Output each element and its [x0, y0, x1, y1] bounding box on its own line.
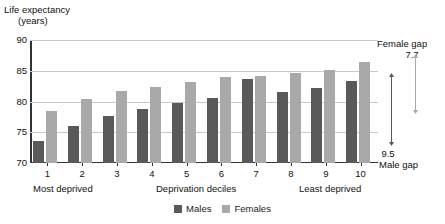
- x-axis-tick-mark: [152, 163, 153, 166]
- x-axis-tick-label: 6: [204, 168, 239, 179]
- bar-males-3: [103, 116, 114, 163]
- y-axis-tick-label: 80: [4, 96, 27, 107]
- bar-males-2: [68, 126, 79, 163]
- y-axis-title-line2: (years): [18, 15, 48, 26]
- bar-group: [100, 40, 135, 163]
- bar-group: [65, 40, 100, 163]
- plot-area: [30, 40, 378, 163]
- bar-groups: [30, 40, 378, 163]
- bar-females-7: [255, 76, 266, 163]
- female-gap-label: Female gap: [377, 38, 427, 49]
- bar-females-6: [220, 77, 231, 163]
- male-gap-value: 9.5: [376, 148, 400, 159]
- x-axis-tick-mark: [117, 163, 118, 166]
- chart-screenshot: Life expectancy (years) 7075808590 12345…: [0, 0, 445, 224]
- bar-group: [204, 40, 239, 163]
- y-axis-tick-label: 90: [4, 34, 27, 45]
- x-axis-caption-least-deprived: Least deprived: [299, 183, 361, 194]
- bar-group: [169, 40, 204, 163]
- legend-label: Females: [234, 203, 270, 214]
- legend-swatch-icon: [174, 205, 182, 213]
- bar-females-8: [290, 73, 301, 163]
- bar-group: [274, 40, 309, 163]
- legend-item-females: Females: [222, 203, 270, 214]
- bar-males-7: [242, 79, 253, 163]
- bar-females-10: [359, 62, 370, 163]
- x-axis-tick-label: 2: [65, 168, 100, 179]
- bar-group: [30, 40, 65, 163]
- x-axis-title: Deprivation deciles: [156, 183, 236, 194]
- x-axis-tick-label: 7: [239, 168, 274, 179]
- x-axis-tick-label: 5: [169, 168, 204, 179]
- legend: MalesFemales: [0, 203, 445, 214]
- y-axis-tick-label: 75: [4, 126, 27, 137]
- x-axis-tick-label: 8: [274, 168, 309, 179]
- x-axis-tick-mark: [291, 163, 292, 166]
- bar-females-3: [116, 91, 127, 163]
- male-gap-label: Male gap: [379, 159, 418, 170]
- x-axis-tick-mark: [256, 163, 257, 166]
- x-axis-tick-mark: [361, 163, 362, 166]
- bar-group: [343, 40, 378, 163]
- x-axis-tick-label: 4: [134, 168, 169, 179]
- x-axis-tick-mark: [326, 163, 327, 166]
- bar-females-2: [81, 99, 92, 163]
- bar-males-5: [172, 103, 183, 163]
- x-axis-tick-label: 9: [308, 168, 343, 179]
- bar-males-8: [277, 92, 288, 163]
- bar-group: [134, 40, 169, 163]
- x-axis-tick-label: 10: [343, 168, 378, 179]
- x-axis-tick-mark: [221, 163, 222, 166]
- bar-males-10: [346, 81, 357, 163]
- legend-swatch-icon: [222, 205, 230, 213]
- bar-males-4: [137, 109, 148, 163]
- x-axis-tick-mark: [187, 163, 188, 166]
- bar-females-4: [150, 87, 161, 163]
- x-axis-tick-mark: [82, 163, 83, 166]
- female-gap-arrow-icon: [411, 54, 420, 114]
- bar-males-1: [33, 141, 44, 163]
- y-axis-tick-label: 70: [4, 157, 27, 168]
- bar-males-6: [207, 98, 218, 163]
- y-axis-tick-label: 85: [4, 65, 27, 76]
- y-axis-title-line1: Life expectancy: [4, 4, 70, 15]
- male-gap-arrow-icon: [387, 73, 396, 146]
- x-axis-tick-label: 3: [100, 168, 135, 179]
- bar-females-9: [324, 70, 335, 163]
- bar-group: [239, 40, 274, 163]
- bar-males-9: [311, 88, 322, 163]
- x-axis-tick-label: 1: [30, 168, 65, 179]
- bar-females-5: [185, 82, 196, 163]
- bar-females-1: [46, 111, 57, 163]
- x-axis-caption-most-deprived: Most deprived: [33, 183, 93, 194]
- legend-label: Males: [186, 203, 211, 214]
- bar-group: [308, 40, 343, 163]
- x-axis-tick-mark: [47, 163, 48, 166]
- legend-item-males: Males: [174, 203, 211, 214]
